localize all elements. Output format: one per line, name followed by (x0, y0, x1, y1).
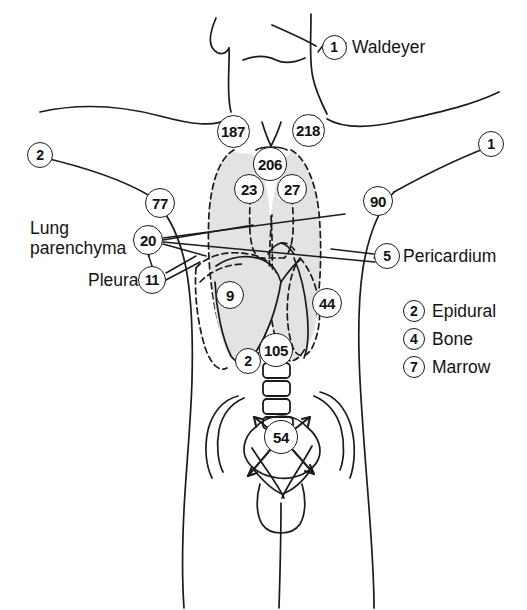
legend-row-marrow: 7Marrow (403, 356, 496, 378)
marker-mediastinum-left: 187 (217, 115, 250, 148)
legend: 2Epidural4Bone7Marrow (403, 300, 496, 378)
legend-label: Marrow (432, 357, 490, 378)
legend-label: Bone (432, 329, 473, 350)
marker-left-shoulder: 2 (27, 142, 53, 168)
legend-label: Epidural (432, 301, 496, 322)
marker-trachea: 206 (253, 147, 287, 181)
marker-axilla-left: 77 (145, 188, 175, 218)
pleura-label: Pleura (88, 270, 139, 290)
legend-row-bone: 4Bone (403, 328, 496, 350)
marker-mediastinum-right: 218 (292, 114, 325, 147)
legend-row-epidural: 2Epidural (403, 300, 496, 322)
marker-pleura: 11 (138, 266, 166, 294)
waldeyer-label: Waldeyer (352, 37, 425, 57)
marker-waldeyer: 1 (322, 35, 347, 60)
marker-pericardium: 5 (374, 243, 400, 269)
legend-marker-icon: 2 (403, 300, 425, 322)
marker-epidural-spine: 2 (235, 348, 261, 374)
legend-marker-icon: 4 (403, 328, 425, 350)
marker-heart-right: 44 (312, 288, 342, 318)
legend-marker-icon: 7 (403, 356, 425, 378)
lung-parenchyma-label: Lung parenchyma (30, 218, 126, 258)
pericardium-label: Pericardium (403, 246, 496, 266)
marker-axilla-right: 90 (363, 186, 393, 216)
marker-heart-left: 9 (216, 281, 244, 309)
anatomy-diagram: 1211872182062327779020511944105254 Walde… (0, 0, 527, 610)
marker-hilum-right: 27 (277, 174, 307, 204)
marker-hilum-left: 23 (234, 174, 264, 204)
neck-outline-group (210, 14, 327, 114)
marker-spinal-cord: 105 (259, 333, 293, 367)
marker-lung-parenchyma: 20 (133, 225, 163, 255)
marker-sacrum: 54 (264, 420, 298, 454)
marker-right-shoulder: 1 (478, 131, 504, 157)
